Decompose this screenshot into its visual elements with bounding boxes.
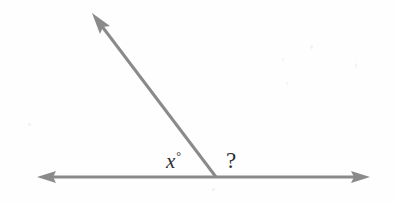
slanted-ray-segment bbox=[101, 25, 216, 177]
diagram-canvas bbox=[0, 0, 395, 203]
slanted-ray-group bbox=[92, 13, 216, 177]
degree-symbol: ° bbox=[176, 149, 181, 163]
straight-line-group bbox=[37, 171, 370, 183]
angle-label-x: x° bbox=[166, 150, 181, 172]
geometry-diagram: x° ? bbox=[0, 0, 395, 203]
angle-label-question: ? bbox=[226, 149, 236, 172]
angle-variable-text: x bbox=[166, 149, 175, 173]
